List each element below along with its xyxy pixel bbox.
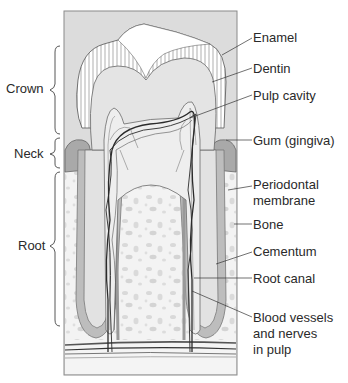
label-bone: Bone: [253, 217, 283, 232]
label-gum: Gum (gingiva): [253, 133, 335, 148]
neck-bracket: [50, 138, 60, 168]
label-crown: Crown: [6, 81, 44, 96]
label-vessels-line1: Blood vessels: [253, 310, 333, 325]
label-enamel: Enamel: [253, 30, 297, 45]
label-periodontal-line1: Periodontal: [253, 177, 319, 192]
label-pulp-cavity: Pulp cavity: [253, 88, 316, 103]
label-root-canal: Root canal: [253, 271, 315, 286]
label-dentin: Dentin: [253, 61, 291, 76]
label-periodontal-line2: membrane: [253, 193, 315, 208]
label-root: Root: [18, 238, 45, 253]
crown-bracket: [50, 46, 60, 134]
label-vessels-line2: and nerves: [253, 326, 317, 341]
region-brackets: [50, 46, 60, 326]
label-cementum: Cementum: [253, 244, 317, 259]
label-vessels-line3: in pulp: [253, 342, 291, 357]
label-neck: Neck: [14, 146, 44, 161]
root-bracket: [50, 172, 60, 326]
